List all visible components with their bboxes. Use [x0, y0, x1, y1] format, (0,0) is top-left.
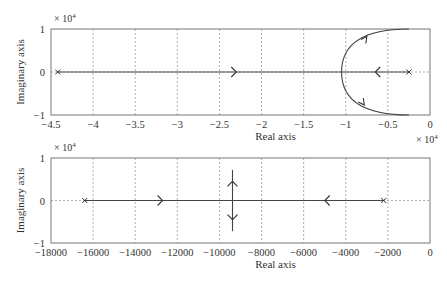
x-tick-label: −10000: [203, 247, 235, 258]
x-axis-label: Real axis: [255, 130, 296, 142]
y-tick-label: 0: [40, 196, 45, 207]
arrow-icon: [358, 98, 364, 105]
x-tick-label: 0: [427, 119, 432, 130]
x-tick-label: −12000: [161, 247, 193, 258]
y-multiplier: × 104: [54, 12, 76, 24]
root-locus-figure: −4.5−4−3.5−3−2.5−2−1.5−1−0.50−101× 104× …: [0, 0, 447, 287]
bottom-plot: −18000−16000−14000−12000−10000−8000−6000…: [14, 141, 433, 270]
y-tick-label: −1: [34, 110, 45, 121]
y-multiplier: × 104: [54, 141, 76, 153]
x-tick-label: −6000: [290, 247, 317, 258]
y-axis-label: Imaginary axis: [14, 168, 26, 234]
root-locus-svg: −4.5−4−3.5−3−2.5−2−1.5−1−0.50−101× 104× …: [0, 0, 447, 287]
x-axis-label: Real axis: [255, 258, 296, 270]
locus-branch: [342, 72, 409, 115]
x-tick-label: −3: [172, 119, 183, 130]
x-tick-label: −2: [256, 119, 267, 130]
x-tick-label: −3.5: [126, 119, 145, 130]
locus-branch: [342, 29, 409, 72]
x-tick-label: −4: [88, 119, 100, 130]
x-tick-label: −2000: [374, 247, 401, 258]
x-tick-label: −0.5: [378, 119, 397, 130]
x-tick-label: −1.5: [294, 119, 313, 130]
locus-branches: [58, 29, 409, 115]
x-tick-label: 0: [427, 247, 432, 258]
top-plot: −4.5−4−3.5−3−2.5−2−1.5−1−0.50−101× 104× …: [14, 12, 438, 145]
x-multiplier: × 104: [416, 133, 438, 145]
locus-branches: [85, 170, 384, 231]
x-tick-label: −16000: [77, 247, 109, 258]
y-tick-label: 1: [40, 24, 45, 35]
x-tick-label: −4000: [332, 247, 359, 258]
x-tick-label: −8000: [248, 247, 275, 258]
x-tick-label: −1: [340, 119, 351, 130]
y-tick-label: 1: [40, 153, 45, 164]
y-tick-label: 0: [40, 67, 45, 78]
y-axis-label: Imaginary axis: [14, 39, 26, 105]
y-tick-label: −1: [34, 238, 45, 249]
x-tick-label: −2.5: [210, 119, 229, 130]
x-tick-label: −14000: [119, 247, 151, 258]
